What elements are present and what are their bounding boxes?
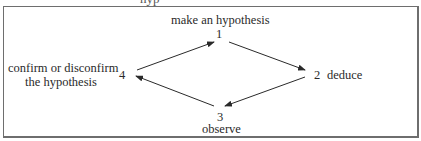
cycle-arrows xyxy=(0,0,421,141)
arrow-2-to-3 xyxy=(225,77,305,106)
arrow-4-to-1 xyxy=(137,42,214,70)
arrow-1-to-2 xyxy=(229,42,305,70)
arrow-3-to-4 xyxy=(136,76,214,106)
